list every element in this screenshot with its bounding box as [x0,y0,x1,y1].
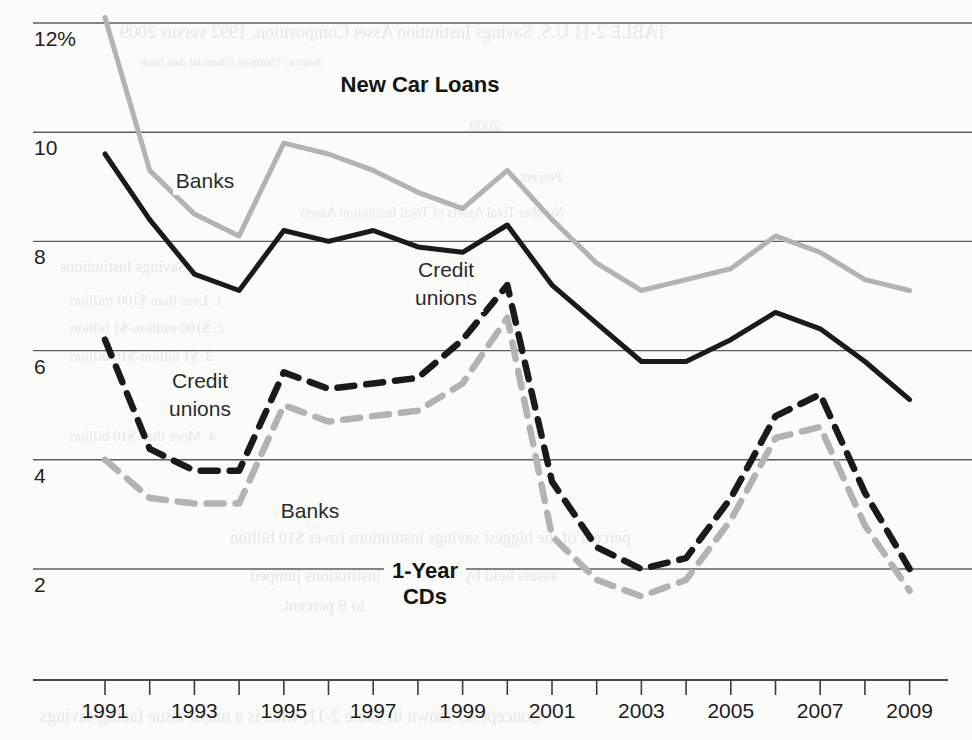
y-axis-tick-label: 6 [34,355,46,378]
x-axis-tick-labels: 1991199319951997199920012003200520072009 [82,699,933,722]
x-axis-tick-label: 2001 [529,699,576,722]
y-axis-tick-label: 12% [34,27,76,50]
x-axis-tick-label: 1997 [350,699,397,722]
x-axis-tick-label: 1999 [439,699,486,722]
y-axis-tick-label: 10 [34,136,57,159]
x-axis-group [33,680,948,695]
x-axis-tick-label: 2003 [618,699,665,722]
x-axis-tick-label: 2007 [797,699,844,722]
series-line-3 [105,318,910,597]
panel-title-new-car-loans: New Car Loans [341,72,500,97]
y-axis-tick-labels: 12%108642 [34,27,76,596]
x-axis-tick-label: 1995 [260,699,307,722]
gridlines-group [33,23,972,569]
series-label-loans-credit-unions-line2: unions [415,286,477,309]
series-label-cds-banks: Banks [281,499,339,522]
chart-figure: TABLE 2-11 U.S. Savings Institution Asse… [0,0,972,740]
series-label-loans-banks: Banks [176,169,234,192]
y-axis-tick-label: 8 [34,245,46,268]
x-axis-tick-label: 1993 [171,699,218,722]
line-chart-plot: 12%108642 199119931995199719992001200320… [0,0,972,740]
chart-annotations-group: New Car LoansBanksCreditunionsCreditunio… [163,72,503,611]
panel-title-one-year-cds-line2: CDs [403,584,447,609]
series-label-loans-credit-unions-line1: Credit [418,258,474,281]
series-label-cds-credit-unions-line1: Credit [172,369,228,392]
panel-title-one-year-cds-line1: 1-Year [392,558,458,583]
x-axis-tick-label: 2009 [886,699,933,722]
series-lines-group [105,18,910,597]
y-axis-tick-label: 4 [34,464,46,487]
series-line-0 [105,18,910,291]
series-label-cds-credit-unions-line2: unions [169,397,231,420]
x-axis-tick-label: 1991 [82,699,129,722]
y-axis-tick-label: 2 [34,573,46,596]
x-axis-tick-label: 2005 [707,699,754,722]
